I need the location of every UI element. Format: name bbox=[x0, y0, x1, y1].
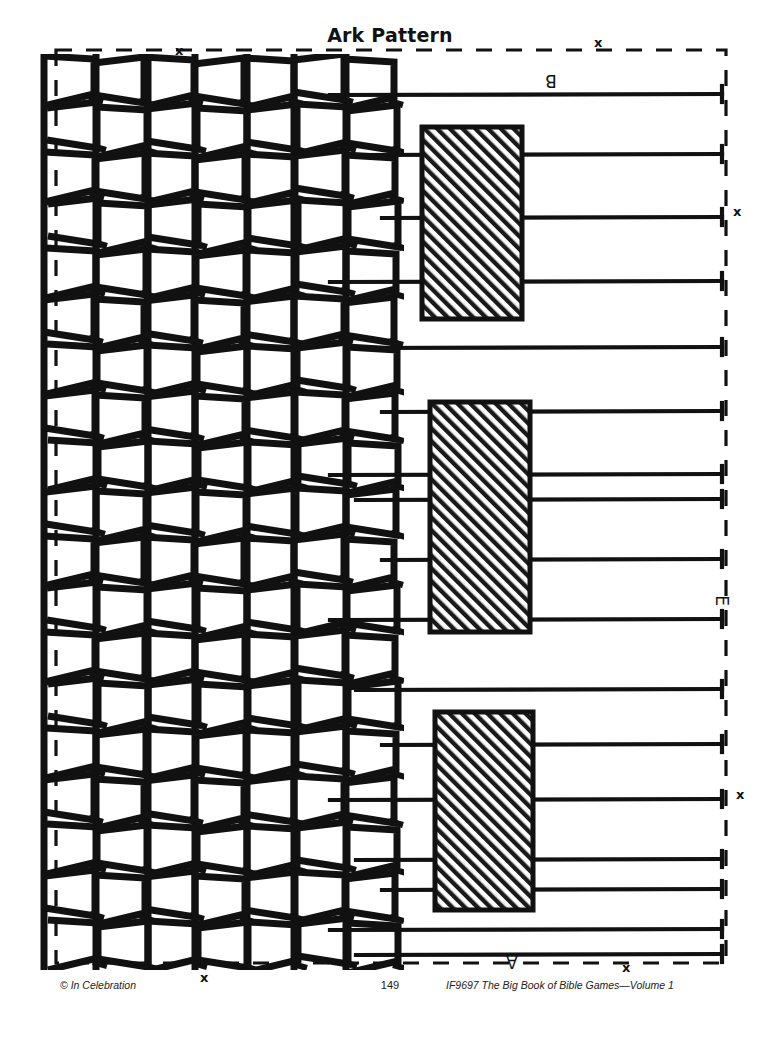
x-marker-top-left: x bbox=[175, 44, 183, 57]
strip-line bbox=[356, 347, 722, 348]
weave-interlock bbox=[191, 531, 205, 535]
hatched-panel-top bbox=[422, 127, 522, 319]
strip-line bbox=[356, 954, 722, 955]
hatched-panel-bottom bbox=[435, 712, 533, 910]
weave-interlock bbox=[89, 338, 103, 342]
strip-line bbox=[330, 929, 722, 930]
x-marker-top-right: x bbox=[594, 36, 602, 49]
strip-line bbox=[356, 154, 722, 155]
weave-interlock bbox=[93, 242, 107, 246]
weave-interlock bbox=[92, 146, 106, 150]
weave-interlock bbox=[91, 530, 105, 534]
x-marker-right-lower: x bbox=[736, 788, 744, 801]
label-b: B bbox=[545, 72, 557, 89]
weave-interlock bbox=[342, 866, 356, 870]
weave-interlock bbox=[391, 533, 405, 537]
footer-source: IF9697 The Big Book of Bible Games—Volum… bbox=[446, 979, 674, 991]
label-a: A bbox=[506, 953, 518, 970]
weave-interlock bbox=[342, 386, 356, 390]
weave-interlock bbox=[89, 818, 103, 822]
weave-interlock bbox=[192, 627, 206, 631]
hatched-panel-middle bbox=[430, 402, 530, 632]
strip-line bbox=[356, 499, 722, 500]
strip-line bbox=[356, 689, 722, 690]
weave-interlock bbox=[189, 339, 203, 343]
weave-interlock bbox=[93, 722, 107, 726]
weave-interlock bbox=[340, 194, 354, 198]
strip-line bbox=[356, 859, 722, 860]
weave-interlock bbox=[343, 482, 357, 486]
weave-interlock bbox=[390, 917, 404, 921]
weave-interlock bbox=[339, 98, 353, 102]
page-title: Ark Pattern bbox=[0, 24, 780, 46]
weave-interlock bbox=[389, 341, 403, 345]
label-e: E bbox=[713, 595, 730, 606]
weave-interlock bbox=[392, 149, 406, 153]
weave-interlock bbox=[90, 434, 104, 438]
page-footer: © In Celebration 149 IF9697 The Big Book… bbox=[0, 979, 780, 999]
weave-interlock bbox=[389, 821, 403, 825]
x-marker-bottom-right: x bbox=[622, 961, 630, 974]
weave-interlock bbox=[90, 914, 104, 918]
weave-interlock bbox=[193, 243, 207, 247]
weave-interlock bbox=[192, 147, 206, 151]
weave-interlock bbox=[190, 915, 204, 919]
x-marker-right-upper: x bbox=[733, 205, 741, 218]
weave-interlock bbox=[190, 435, 204, 439]
weave-interlock bbox=[341, 770, 355, 774]
weave-interlock bbox=[341, 290, 355, 294]
weave-interlock bbox=[340, 674, 354, 678]
ark-pattern-artwork bbox=[0, 0, 780, 1047]
ark-pattern-page: Ark Pattern BEA xxxxxx © In Celebration … bbox=[0, 0, 780, 1047]
strip-line bbox=[330, 281, 722, 282]
weave-interlock bbox=[92, 626, 106, 630]
hatched-panels-layer bbox=[422, 127, 533, 910]
weave-interlock bbox=[339, 578, 353, 582]
weave-interlock bbox=[189, 819, 203, 823]
weave-interlock bbox=[392, 629, 406, 633]
weave-interlock bbox=[193, 723, 207, 727]
weave-interlock bbox=[390, 437, 404, 441]
